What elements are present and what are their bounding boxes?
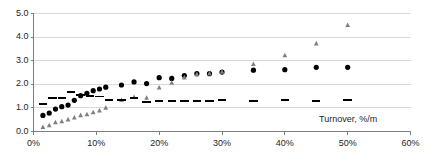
- data-point: [105, 99, 113, 101]
- y-tick-label: 2.0: [2, 78, 29, 88]
- data-point: [168, 100, 176, 102]
- data-point: [144, 95, 149, 100]
- data-point: [53, 106, 58, 111]
- data-point: [218, 99, 226, 101]
- y-tick-label: 3.0: [2, 55, 29, 65]
- data-point: [76, 94, 84, 96]
- data-point: [78, 113, 83, 118]
- data-point: [282, 67, 287, 72]
- x-tick-label: 30%: [200, 138, 244, 148]
- data-point: [41, 124, 46, 129]
- data-point: [47, 110, 52, 115]
- data-point: [72, 98, 77, 103]
- x-tick-label: 40%: [263, 138, 307, 148]
- data-point: [86, 95, 94, 97]
- data-point: [157, 75, 162, 80]
- x-tick-label: 0%: [12, 138, 56, 148]
- y-tick-label: 0.0: [2, 126, 29, 136]
- data-point: [59, 119, 64, 124]
- y-tick-label: 4.0: [2, 31, 29, 41]
- data-point: [169, 80, 174, 85]
- x-tick-label: 20%: [137, 138, 181, 148]
- data-point: [345, 65, 350, 70]
- data-point: [144, 81, 149, 86]
- x-tick-label: 10%: [74, 138, 118, 148]
- data-point: [131, 79, 136, 84]
- data-point: [345, 22, 350, 27]
- data-point: [142, 101, 150, 103]
- data-point: [312, 100, 320, 102]
- data-point: [65, 102, 70, 107]
- data-point: [193, 100, 201, 102]
- data-point: [95, 96, 103, 98]
- data-point: [91, 88, 96, 93]
- data-point: [85, 112, 90, 117]
- data-point: [314, 65, 319, 70]
- x-tick-label: 60%: [389, 138, 432, 148]
- data-point: [314, 41, 319, 46]
- data-point: [58, 97, 66, 99]
- data-point: [72, 115, 77, 120]
- data-point: [205, 100, 213, 102]
- data-point: [117, 99, 125, 101]
- x-axis-title: Turnover, %/m: [319, 114, 377, 124]
- data-point: [39, 103, 47, 105]
- x-tick-label: 50%: [326, 138, 370, 148]
- data-point: [48, 97, 56, 99]
- data-point: [343, 99, 351, 101]
- plot-area: [0, 0, 432, 155]
- data-point: [157, 85, 162, 90]
- data-point: [119, 82, 124, 87]
- scatter-chart: 0.01.02.03.04.05.00%10%20%30%40%50%60% T…: [0, 0, 432, 155]
- data-point: [180, 100, 188, 102]
- data-point: [281, 99, 289, 101]
- data-point: [103, 105, 108, 110]
- y-tick-label: 5.0: [2, 8, 29, 18]
- y-tick-label: 1.0: [2, 102, 29, 112]
- data-point: [251, 68, 256, 73]
- data-point: [97, 86, 102, 91]
- data-point: [40, 113, 45, 118]
- series-triangle_series: [41, 22, 351, 129]
- data-point: [249, 100, 257, 102]
- data-point: [53, 120, 58, 125]
- series-circle_series: [40, 65, 350, 118]
- data-point: [91, 110, 96, 115]
- data-point: [251, 61, 256, 66]
- data-point: [130, 97, 138, 99]
- data-point: [67, 91, 75, 93]
- data-point: [66, 117, 71, 122]
- data-point: [97, 108, 102, 113]
- data-point: [169, 76, 174, 81]
- data-point: [282, 53, 287, 58]
- data-point: [155, 100, 163, 102]
- data-point: [47, 123, 52, 128]
- data-point: [103, 85, 108, 90]
- data-point: [59, 104, 64, 109]
